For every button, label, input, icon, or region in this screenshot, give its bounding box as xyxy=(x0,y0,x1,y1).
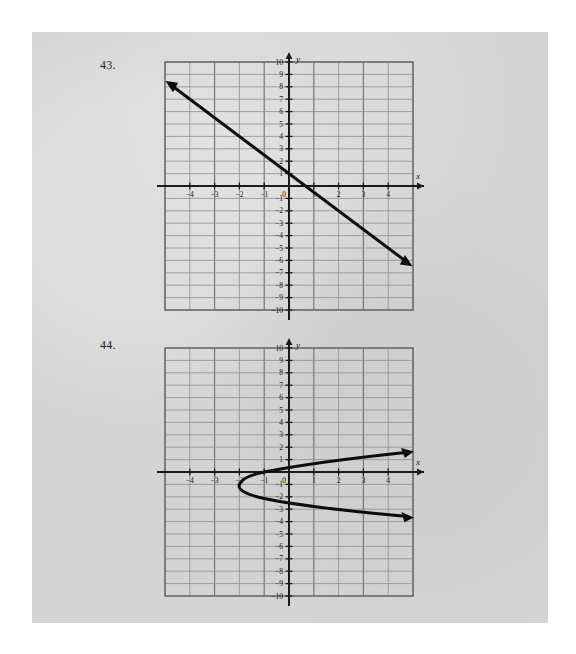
x-tick-label: −3 xyxy=(211,190,219,199)
x-tick-label: −2 xyxy=(235,190,243,199)
y-tick-label: 1 xyxy=(279,455,283,464)
y-axis-label: y xyxy=(295,340,300,350)
x-axis-arrowhead xyxy=(417,183,424,190)
y-tick-label: −4 xyxy=(275,517,283,526)
x-tick-label: −3 xyxy=(211,476,219,485)
parabola-arrowhead-upper xyxy=(401,448,414,458)
y-tick-label: −4 xyxy=(275,231,283,240)
y-tick-label: 10 xyxy=(276,344,284,353)
y-tick-label: 5 xyxy=(279,120,283,129)
y-tick-label: −3 xyxy=(275,219,283,228)
x-axis-arrowhead xyxy=(417,469,424,476)
y-tick-label: 5 xyxy=(279,406,283,415)
y-tick-label: −5 xyxy=(275,244,283,253)
y-tick-label: 10 xyxy=(276,58,284,67)
graph-44-canvas: −4 −3 −2 −1 0 1 2 3 4 10 9 8 7 6 5 xyxy=(152,326,452,626)
y-tick-label: −5 xyxy=(275,530,283,539)
x-tick-label: −4 xyxy=(186,190,194,199)
y-tick-label: −10 xyxy=(271,592,283,601)
y-tick-label: −7 xyxy=(275,268,283,277)
y-tick-label: −6 xyxy=(275,256,283,265)
parabola-arrowhead-lower xyxy=(401,512,413,522)
y-tick-label: −10 xyxy=(271,306,283,315)
y-tick-label: −9 xyxy=(275,579,283,588)
y-tick-label: 2 xyxy=(279,157,283,166)
y-tick-label: 8 xyxy=(279,368,283,377)
graph-43-canvas: −4 −3 −2 −1 0 1 2 3 4 10 9 8 7 6 xyxy=(152,40,452,340)
x-tick-label: −4 xyxy=(186,476,194,485)
x-tick-label: 1 xyxy=(312,476,316,485)
graph-44: −4 −3 −2 −1 0 1 2 3 4 10 9 8 7 6 5 xyxy=(152,326,452,626)
x-axis-label: x xyxy=(415,457,420,467)
x-tick-label: −1 xyxy=(260,190,268,199)
y-tick-label: 8 xyxy=(279,82,283,91)
x-tick-label: 3 xyxy=(362,190,366,199)
y-tick-label: −6 xyxy=(275,542,283,551)
y-tick-label: −1 xyxy=(275,480,283,489)
y-tick-label: −7 xyxy=(275,554,283,563)
y-tick-label: −9 xyxy=(275,293,283,302)
y-tick-label: −3 xyxy=(275,505,283,514)
y-tick-label: 6 xyxy=(279,107,283,116)
graph-43: −4 −3 −2 −1 0 1 2 3 4 10 9 8 7 6 xyxy=(152,40,452,340)
x-tick-label: −1 xyxy=(260,476,268,485)
problem-number-44: 44. xyxy=(100,338,116,353)
x-tick-label: 2 xyxy=(337,190,341,199)
y-tick-label: 3 xyxy=(279,144,283,153)
x-tick-label: 4 xyxy=(386,190,390,199)
y-tick-label: −1 xyxy=(275,194,283,203)
y-axis-arrowhead xyxy=(286,52,293,59)
textbook-page: 43. xyxy=(32,32,548,623)
y-tick-label: 4 xyxy=(279,132,283,141)
y-tick-label: 4 xyxy=(279,418,283,427)
y-tick-label: −8 xyxy=(275,567,283,576)
y-tick-label: 7 xyxy=(279,95,283,104)
y-tick-label: −8 xyxy=(275,281,283,290)
y-tick-label: 7 xyxy=(279,381,283,390)
x-axis-label: x xyxy=(415,171,420,181)
y-axis-label: y xyxy=(295,54,300,64)
x-tick-label: 4 xyxy=(386,476,390,485)
y-tick-label: 6 xyxy=(279,393,283,402)
y-tick-label: 9 xyxy=(279,356,283,365)
problem-number-43: 43. xyxy=(100,58,116,73)
y-axis-arrowhead xyxy=(286,338,293,345)
y-tick-label: −2 xyxy=(275,206,283,215)
y-tick-label: 2 xyxy=(279,443,283,452)
y-tick-label: 9 xyxy=(279,70,283,79)
x-tick-label: 3 xyxy=(362,476,366,485)
y-tick-label: 3 xyxy=(279,430,283,439)
x-tick-label: 2 xyxy=(337,476,341,485)
